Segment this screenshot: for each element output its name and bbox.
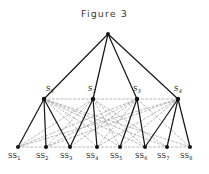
dashed-edge xyxy=(97,99,137,147)
node-ss3[interactable] xyxy=(68,145,72,149)
dashed-edge xyxy=(18,99,178,147)
dashed-edge xyxy=(137,99,190,147)
label-subscript: 5 xyxy=(51,88,54,94)
label-subscript: 1 xyxy=(93,88,96,94)
dashed-edge xyxy=(46,99,93,147)
solid-edge xyxy=(108,34,178,99)
solid-edge xyxy=(93,99,97,147)
label-s1: S1 xyxy=(88,86,96,93)
label-subscript: 6 xyxy=(144,155,147,161)
node-root[interactable] xyxy=(106,32,110,36)
dashed-edge xyxy=(70,99,137,147)
dashed-edge xyxy=(93,99,167,147)
node-s5[interactable] xyxy=(42,97,46,101)
node-ss7[interactable] xyxy=(165,145,169,149)
label-s3: S3 xyxy=(133,86,141,93)
label-subscript: 5 xyxy=(119,155,122,161)
solid-edge xyxy=(18,99,44,147)
node-s4[interactable] xyxy=(176,97,180,101)
label-ss3: SS3 xyxy=(60,153,72,160)
node-ss5[interactable] xyxy=(118,145,122,149)
label-subscript: 8 xyxy=(189,155,192,161)
figure-container: Figure 3 S5S1S3S4SS1SS2SS3SS4SS5SS6SS7SS… xyxy=(0,0,209,174)
label-base: SS xyxy=(157,152,166,160)
node-ss2[interactable] xyxy=(44,145,48,149)
label-base: S xyxy=(46,85,50,93)
label-ss8: SS8 xyxy=(180,153,192,160)
label-ss5: SS5 xyxy=(110,153,122,160)
label-base: SS xyxy=(36,152,45,160)
node-ss6[interactable] xyxy=(143,145,147,149)
label-ss6: SS6 xyxy=(135,153,147,160)
label-base: S xyxy=(174,85,178,93)
label-ss7: SS7 xyxy=(157,153,169,160)
solid-edge-group xyxy=(18,34,190,147)
node-s3[interactable] xyxy=(135,97,139,101)
label-base: SS xyxy=(8,152,17,160)
label-base: SS xyxy=(60,152,69,160)
label-subscript: 2 xyxy=(45,155,48,161)
label-ss4: SS4 xyxy=(86,153,98,160)
label-subscript: 3 xyxy=(69,155,72,161)
label-base: SS xyxy=(135,152,144,160)
label-subscript: 4 xyxy=(179,88,182,94)
label-subscript: 3 xyxy=(138,88,141,94)
solid-edge xyxy=(137,99,145,147)
label-ss2: SS2 xyxy=(36,153,48,160)
label-subscript: 1 xyxy=(17,155,20,161)
label-subscript: 7 xyxy=(166,155,169,161)
solid-edge xyxy=(44,99,46,147)
node-ss4[interactable] xyxy=(95,145,99,149)
label-base: SS xyxy=(86,152,95,160)
label-base: SS xyxy=(180,152,189,160)
label-s4: S4 xyxy=(174,86,182,93)
label-base: SS xyxy=(110,152,119,160)
label-base: S xyxy=(133,85,137,93)
label-ss1: SS1 xyxy=(8,153,20,160)
node-ss1[interactable] xyxy=(16,145,20,149)
label-s5: S5 xyxy=(46,86,54,93)
label-subscript: 4 xyxy=(95,155,98,161)
solid-edge xyxy=(178,99,190,147)
label-base: S xyxy=(88,85,92,93)
node-s1[interactable] xyxy=(91,97,95,101)
node-ss8[interactable] xyxy=(188,145,192,149)
